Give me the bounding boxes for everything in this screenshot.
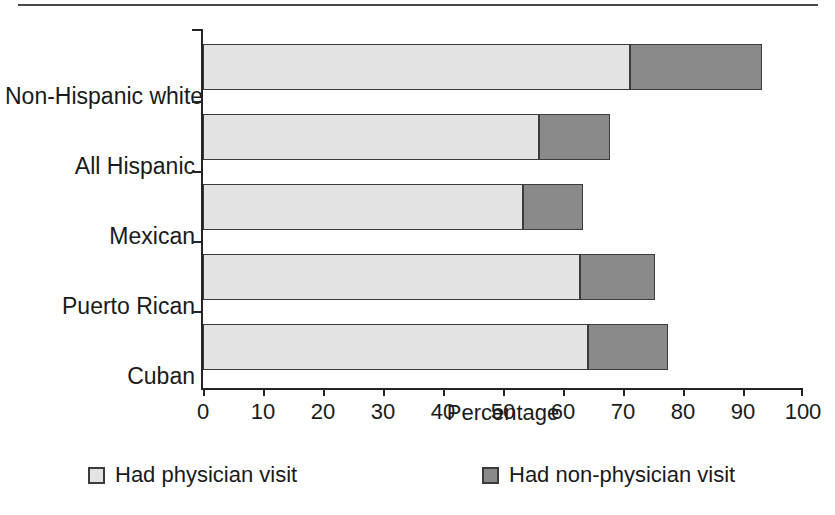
header-rule	[18, 4, 818, 6]
y-axis-tick-top	[192, 29, 202, 31]
x-axis-tick-40	[443, 388, 445, 396]
bar-segment-physician-visit	[203, 114, 539, 160]
light-gray-swatch-icon	[88, 467, 105, 484]
x-axis-tick-100	[801, 388, 803, 396]
bar-segment-physician-visit	[203, 324, 588, 370]
bar-segment-non-physician-visit	[588, 324, 668, 370]
x-axis-tick-10	[263, 388, 265, 396]
x-axis-tick-80	[683, 388, 685, 396]
category-label-mexican: Mexican	[5, 222, 195, 250]
category-label-puerto-rican: Puerto Rican	[5, 292, 195, 320]
dark-gray-swatch-icon	[482, 467, 499, 484]
bar-segment-physician-visit	[203, 44, 630, 90]
legend-label-non-physician-visit: Had non-physician visit	[509, 462, 735, 488]
category-axis-labels: Non-Hispanic white All Hispanic Mexican …	[0, 29, 195, 388]
y-axis-tick-4	[192, 311, 202, 313]
bar-segment-physician-visit	[203, 184, 523, 230]
x-axis-line	[201, 388, 803, 390]
legend-item-non-physician-visit: Had non-physician visit	[482, 462, 735, 488]
x-axis-title: Percentage	[203, 400, 803, 426]
bar-segment-physician-visit	[203, 254, 580, 300]
chart-legend: Had physician visit Had non-physician vi…	[88, 462, 748, 502]
category-label-all-hispanic: All Hispanic	[5, 152, 195, 180]
stacked-bar-chart-figure: Non-Hispanic white All Hispanic Mexican …	[0, 0, 835, 515]
legend-label-physician-visit: Had physician visit	[115, 462, 297, 488]
x-axis-tick-90	[743, 388, 745, 396]
y-axis-tick-1	[192, 101, 202, 103]
y-axis-tick-2	[192, 171, 202, 173]
x-axis-tick-60	[563, 388, 565, 396]
x-axis-tick-70	[623, 388, 625, 396]
bar-segment-non-physician-visit	[539, 114, 610, 160]
x-axis-tick-0	[203, 388, 205, 396]
bar-segment-non-physician-visit	[523, 184, 583, 230]
category-label-non-hispanic-white: Non-Hispanic white	[5, 82, 195, 110]
legend-item-physician-visit: Had physician visit	[88, 462, 297, 488]
bar-segment-non-physician-visit	[580, 254, 655, 300]
x-axis-tick-30	[383, 388, 385, 396]
category-label-cuban: Cuban	[5, 362, 195, 390]
x-axis-tick-20	[323, 388, 325, 396]
x-axis-tick-50	[503, 388, 505, 396]
bar-segment-non-physician-visit	[630, 44, 762, 90]
plot-area: 0 10 20 30 40 50 60 70 80 90 100	[203, 29, 803, 388]
y-axis-tick-3	[192, 241, 202, 243]
